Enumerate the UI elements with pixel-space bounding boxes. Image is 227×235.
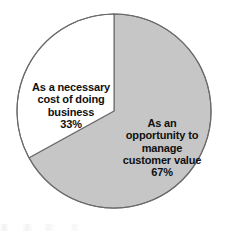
pie-chart-figure: As a necessary cost of doing business 33… <box>0 0 227 235</box>
pie-chart-graphic <box>0 0 227 235</box>
